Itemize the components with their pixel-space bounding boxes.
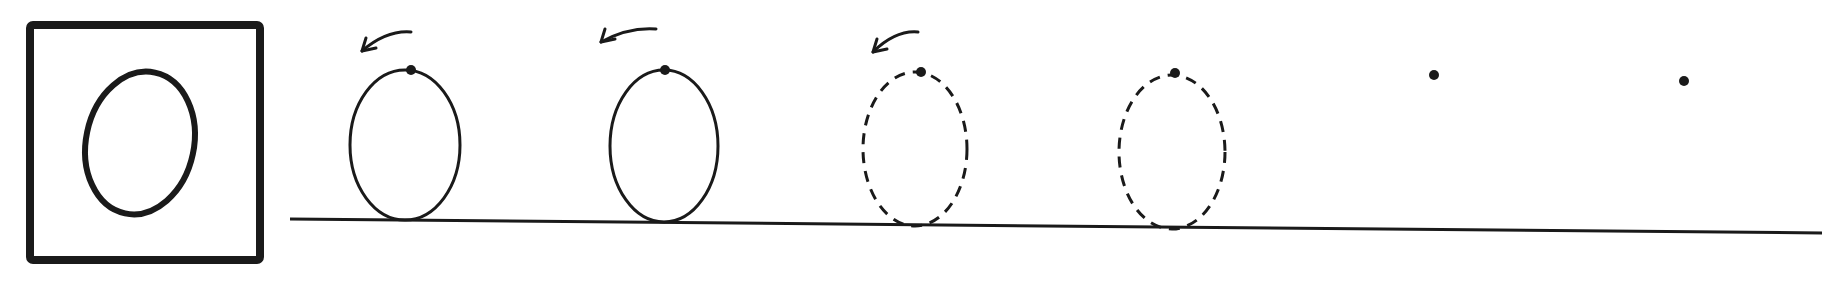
- model-letter-o: [72, 61, 208, 224]
- start-point-dot: [916, 67, 926, 77]
- start-point-dot: [1679, 76, 1689, 86]
- model-letter-box: [30, 25, 260, 260]
- direction-arrow-icon: [873, 32, 918, 52]
- guide-letter-o-solid: [350, 70, 460, 220]
- writing-baseline: [290, 219, 1822, 233]
- start-point-dot: [1429, 70, 1439, 80]
- worksheet-canvas: [0, 0, 1829, 287]
- start-point-dot: [660, 65, 670, 75]
- tracing-letter-o-dashed: [863, 72, 967, 226]
- tracing-letter-o-dashed: [1119, 75, 1225, 229]
- start-point-dot: [1170, 68, 1180, 78]
- start-point-dot: [406, 65, 416, 75]
- guide-letter-o-solid: [610, 70, 718, 222]
- letter-o-worksheet: [0, 0, 1829, 287]
